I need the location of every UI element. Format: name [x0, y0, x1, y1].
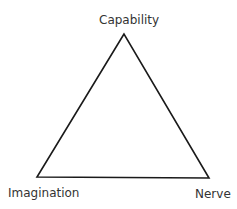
node-label-nerve: Nerve: [195, 187, 231, 201]
triangle-shape: [0, 0, 237, 209]
triangle-diagram: Capability Imagination Nerve: [0, 0, 237, 209]
triangle-outline: [37, 34, 209, 178]
node-label-imagination: Imagination: [8, 186, 79, 200]
node-label-capability: Capability: [99, 13, 159, 27]
